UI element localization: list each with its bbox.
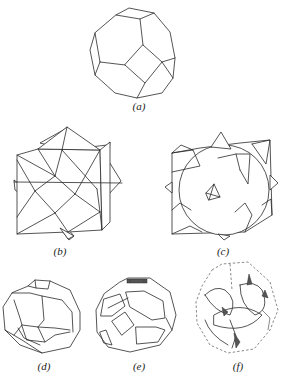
caption-b: (b) (40, 245, 80, 257)
figure-drawings (0, 0, 286, 383)
panel-b-spiked-cube (14, 127, 122, 240)
panel-f-curved-cell (196, 262, 278, 353)
caption-a: (a) (119, 100, 159, 112)
caption-d: (d) (24, 360, 64, 372)
figure: (a) (b) (c) (d) (e) (f) (0, 0, 286, 383)
caption-e: (e) (119, 360, 159, 372)
panel-e-inset-faces (96, 278, 176, 352)
panel-a-truncated-octahedron (90, 8, 175, 98)
caption-c: (c) (203, 245, 243, 257)
panel-c-cavity-cube (165, 132, 278, 240)
panel-d-hollow-frame (3, 280, 80, 353)
caption-f: (f) (218, 360, 258, 372)
